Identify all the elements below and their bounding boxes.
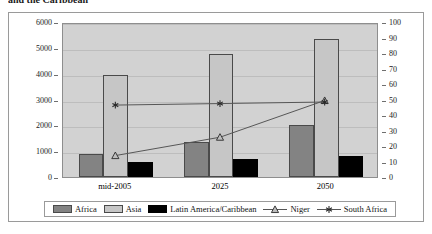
right-axis-tickmark-0 <box>382 178 386 179</box>
legend-item-asia[interactable]: Asia <box>104 204 142 214</box>
legend-swatch-asia <box>104 205 123 213</box>
right-axis-tickmark-90 <box>382 39 386 40</box>
legend-label-asia: Asia <box>126 204 142 214</box>
right-axis-tickmark-10 <box>382 163 386 164</box>
left-axis-tickmark-2000 <box>54 126 58 127</box>
category-label-2: 2050 <box>317 181 334 191</box>
category-label-0: mid-2005 <box>98 181 131 191</box>
left-axis-tick-1000: 1000 <box>36 148 52 156</box>
left-axis-tick-4000: 4000 <box>36 71 52 79</box>
left-axis-tick-5000: 5000 <box>36 45 52 53</box>
right-axis-tickmark-40 <box>382 116 386 117</box>
legend-marker-south-africa <box>317 205 341 214</box>
line-series-layer <box>63 24 377 177</box>
right-axis-tick-0: 0 <box>389 174 393 182</box>
left-axis-tickmark-4000 <box>54 75 58 76</box>
right-axis-tickmark-50 <box>382 101 386 102</box>
left-axis-tick-2000: 2000 <box>36 122 52 130</box>
legend-label-africa: Africa <box>75 204 97 214</box>
left-axis-tickmark-5000 <box>54 49 58 50</box>
left-axis-tickmark-6000 <box>54 23 58 24</box>
right-axis-tickmark-100 <box>382 23 386 24</box>
legend-item-south-africa[interactable]: South Africa <box>317 204 387 214</box>
left-axis-tickmark-0 <box>54 178 58 179</box>
category-axis-labels: mid-200520252050 <box>62 181 378 195</box>
chart-frame: 0100020003000400050006000 01020304050607… <box>8 12 424 222</box>
figure-caption: and the Caribbean <box>8 0 158 5</box>
right-axis-tickmark-80 <box>382 54 386 55</box>
left-axis-tickmark-3000 <box>54 101 58 102</box>
right-axis-tickmark-30 <box>382 132 386 133</box>
marker-niger-1 <box>216 134 223 141</box>
legend-swatch-latin-america-caribbean <box>148 205 167 213</box>
right-axis-tickmark-20 <box>382 147 386 148</box>
right-axis-tickmark-60 <box>382 85 386 86</box>
plot-area <box>62 23 378 178</box>
category-label-1: 2025 <box>212 181 229 191</box>
legend-marker-niger <box>263 205 287 214</box>
legend-label-niger: Niger <box>290 204 309 214</box>
legend-label-south-africa: South Africa <box>344 204 387 214</box>
left-axis-tickmark-1000 <box>54 152 58 153</box>
legend-item-niger[interactable]: Niger <box>263 204 309 214</box>
right-axis-tickmark-70 <box>382 70 386 71</box>
right-axis-tick-80: 80 <box>389 50 397 58</box>
right-axis-tick-30: 30 <box>389 128 397 136</box>
legend-label-latin-america-caribbean: Latin America/Caribbean <box>170 204 256 214</box>
right-axis-tick-70: 70 <box>389 66 397 74</box>
right-axis-tick-40: 40 <box>389 112 397 120</box>
right-axis-tick-90: 90 <box>389 35 397 43</box>
right-axis-tick-10: 10 <box>389 159 397 167</box>
right-value-axis: 0102030405060708090100 <box>381 23 425 178</box>
chart-legend: AfricaAsiaLatin America/CaribbeanNigerSo… <box>44 201 396 217</box>
left-axis-tick-3000: 3000 <box>36 97 52 105</box>
figure-container: and the Caribbean 0100020003000400050006… <box>0 0 432 234</box>
legend-item-latin-america-caribbean[interactable]: Latin America/Caribbean <box>148 204 256 214</box>
right-axis-tick-60: 60 <box>389 81 397 89</box>
line-niger <box>115 101 324 156</box>
right-axis-tick-20: 20 <box>389 143 397 151</box>
left-value-axis: 0100020003000400050006000 <box>14 23 58 178</box>
right-axis-tick-50: 50 <box>389 97 397 105</box>
right-axis-tick-100: 100 <box>389 19 401 27</box>
legend-swatch-africa <box>53 205 72 213</box>
legend-item-africa[interactable]: Africa <box>53 204 97 214</box>
left-axis-tick-6000: 6000 <box>36 19 52 27</box>
left-axis-tick-0: 0 <box>48 174 52 182</box>
